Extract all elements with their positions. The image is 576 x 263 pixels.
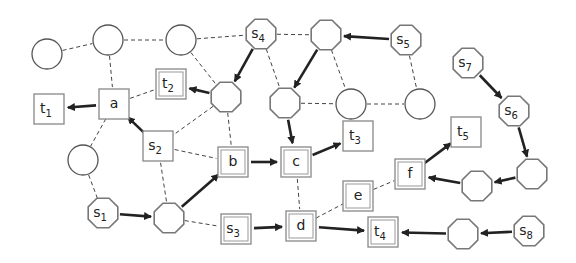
node-o2 bbox=[211, 82, 241, 112]
dashed-edge bbox=[197, 35, 245, 39]
directed-arrow bbox=[182, 175, 219, 207]
directed-arrow bbox=[319, 227, 364, 230]
node-b: b bbox=[218, 147, 248, 177]
directed-arrow bbox=[429, 177, 461, 183]
node-s1: s1 bbox=[88, 198, 118, 228]
node-label: b bbox=[229, 153, 238, 169]
dashed-edge bbox=[161, 163, 167, 202]
directed-arrow bbox=[120, 214, 151, 216]
node-s2: s2 bbox=[143, 131, 173, 161]
dashed-edge bbox=[409, 56, 416, 89]
directed-arrow bbox=[288, 120, 292, 144]
node-t3: t3 bbox=[343, 121, 373, 151]
dashed-edge bbox=[374, 181, 395, 190]
dashed-edge bbox=[228, 113, 231, 145]
node-o7 bbox=[448, 219, 478, 249]
dashed-edge bbox=[63, 44, 93, 51]
dashed-edge bbox=[331, 50, 345, 89]
dashed-edge bbox=[191, 53, 216, 85]
node-s4: s4 bbox=[246, 19, 276, 49]
node-c3 bbox=[166, 25, 196, 55]
dashed-edge bbox=[91, 119, 106, 146]
node-c4 bbox=[336, 89, 366, 119]
directed-arrow bbox=[189, 88, 209, 93]
dashed-edge bbox=[277, 34, 310, 35]
node-o1 bbox=[311, 20, 341, 50]
directed-arrow bbox=[254, 227, 282, 228]
graph-diagram: s4s5at1t2s7s6s2bct3t5fes1s3dt4s8 bbox=[0, 0, 576, 263]
dashed-edge bbox=[301, 103, 335, 104]
dashed-edge bbox=[175, 150, 217, 159]
node-d: d bbox=[286, 211, 316, 241]
dashed-edge bbox=[172, 106, 213, 136]
directed-arrow bbox=[481, 232, 512, 233]
node-c5 bbox=[405, 89, 435, 119]
node-t2: t2 bbox=[156, 69, 186, 99]
node-s8: s8 bbox=[514, 216, 544, 246]
dashed-edge bbox=[130, 90, 155, 99]
node-c: c bbox=[281, 147, 311, 177]
dashed-edge bbox=[109, 56, 112, 87]
node-label: a bbox=[110, 95, 119, 111]
node-c2 bbox=[93, 25, 123, 55]
dashed-edge bbox=[266, 49, 279, 88]
node-t1: t1 bbox=[34, 94, 64, 124]
node-s5: s5 bbox=[391, 25, 421, 55]
dashed-edge bbox=[316, 204, 343, 218]
directed-arrow bbox=[235, 49, 253, 81]
directed-arrow bbox=[402, 232, 446, 233]
directed-arrow bbox=[495, 178, 516, 183]
directed-arrow bbox=[68, 105, 96, 107]
dashed-edge bbox=[185, 221, 219, 227]
directed-arrow bbox=[313, 143, 341, 155]
node-s3: s3 bbox=[221, 214, 251, 244]
node-label: c bbox=[292, 153, 300, 169]
directed-arrow bbox=[424, 143, 450, 163]
node-c1 bbox=[32, 39, 62, 69]
node-o4 bbox=[462, 171, 492, 201]
node-s7: s7 bbox=[453, 48, 483, 78]
directed-arrow bbox=[344, 36, 389, 39]
node-label: e bbox=[354, 187, 363, 203]
node-o5 bbox=[517, 159, 547, 189]
node-a: a bbox=[99, 89, 129, 119]
dashed-edge bbox=[89, 175, 98, 198]
node-s6: s6 bbox=[499, 96, 529, 126]
directed-arrow bbox=[294, 50, 317, 88]
node-c6 bbox=[68, 145, 98, 175]
node-label: d bbox=[297, 217, 306, 233]
node-e: e bbox=[343, 181, 373, 211]
directed-arrow bbox=[480, 75, 502, 98]
node-t4: t4 bbox=[368, 217, 398, 247]
node-o6 bbox=[154, 203, 184, 233]
node-o3 bbox=[270, 88, 300, 118]
node-f: f bbox=[395, 159, 425, 189]
nodes: s4s5at1t2s7s6s2bct3t5fes1s3dt4s8 bbox=[32, 19, 547, 249]
node-t5: t5 bbox=[451, 117, 481, 147]
dashed-edge bbox=[297, 179, 299, 209]
directed-arrow bbox=[519, 127, 527, 156]
